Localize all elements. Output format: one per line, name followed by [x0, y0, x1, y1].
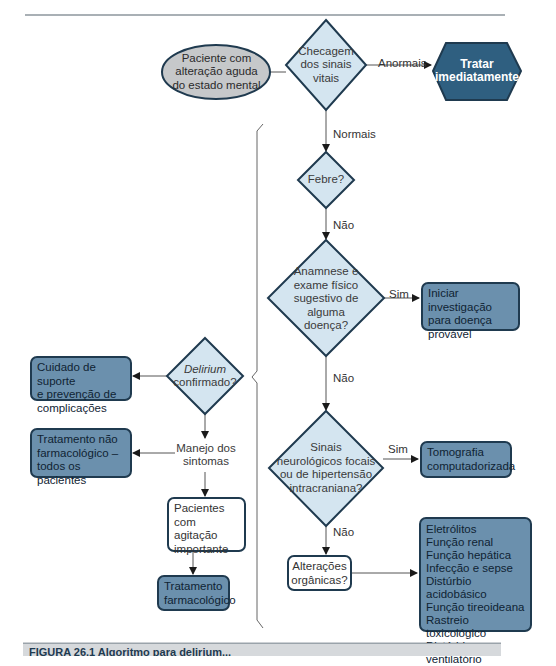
organic-item: Eletrólitos: [426, 523, 525, 536]
agitation-box: Pacientes com agitação importante: [167, 497, 246, 552]
treat-now-line-1: Tratar: [435, 58, 519, 72]
start-line-2: alteração aguda: [172, 65, 260, 79]
delirium-line-1: Delirium: [173, 363, 236, 377]
start-line-3: do estado mental: [172, 79, 260, 93]
investigate-box: Iniciar investigação para doença prováve…: [421, 282, 520, 331]
vitals-line-2: dos sinais: [298, 58, 354, 72]
start-node: Paciente com alteração aguda do estado m…: [163, 52, 270, 92]
treat-now-node: Tratar imediatamente: [438, 50, 516, 92]
organic-line-1: Alterações: [291, 560, 348, 574]
fever-no-label: Não: [333, 219, 354, 232]
support-line-3: complicações: [37, 402, 125, 416]
brace: [252, 124, 263, 628]
investigate-line-1: Iniciar investigação: [428, 287, 513, 314]
neuro-line-1: Sinais: [277, 441, 375, 455]
organic-item: Função tireoideana: [426, 601, 525, 614]
fever-node: Febre?: [298, 172, 354, 188]
ct-line-1: Tomografia: [427, 446, 505, 460]
organic-item: Infecção e sepse: [426, 562, 525, 575]
abnormal-label: Anormais: [378, 57, 427, 70]
symptoms-line-1: Manejo dos: [176, 442, 235, 456]
neuro-yes-label: Sim: [388, 443, 408, 456]
pharm-line-1: Tratamento: [164, 580, 223, 594]
ct-box: Tomografia computadorizada: [420, 441, 512, 478]
investigate-line-2: para doença: [428, 314, 513, 328]
support-line-2: e prevenção de: [37, 388, 125, 402]
agitation-line-3: importante: [174, 543, 239, 557]
history-line-4: alguma: [294, 306, 359, 320]
support-box: Cuidado de suporte e prevenção de compli…: [30, 356, 132, 401]
neuro-node: Sinais neurológicos focais ou de hiperte…: [276, 440, 376, 496]
investigate-line-3: provável: [428, 328, 513, 342]
treat-now-line-2: imediatamente: [435, 71, 519, 85]
neuro-line-2: neurológicos focais: [277, 455, 375, 469]
figure-caption: FIGURA 26.1 Algoritmo para delirium...: [23, 643, 501, 656]
nonpharm-line-3: todos os pacientes: [37, 460, 125, 487]
history-no-label: Não: [333, 372, 354, 385]
nonpharm-box: Tratamento não farmacológico – todos os …: [30, 428, 132, 478]
caption-text: FIGURA 26.1 Algoritmo para delirium...: [29, 646, 231, 656]
history-line-5: doença?: [294, 319, 359, 333]
support-line-1: Cuidado de suporte: [37, 361, 125, 388]
history-line-2: exame físico: [294, 279, 359, 293]
delirium-node: Delirium confirmado?: [170, 362, 240, 390]
start-line-1: Paciente com: [172, 52, 260, 66]
vitals-line-3: vitais: [298, 72, 354, 86]
pharm-box: Tratamento farmacológico: [157, 575, 230, 611]
agitation-line-2: agitação: [174, 529, 239, 543]
ct-line-2: computadorizada: [427, 460, 505, 474]
nonpharm-line-1: Tratamento não: [37, 433, 125, 447]
organic-item: Rastreio toxicológico: [426, 614, 525, 640]
symptoms-line-2: sintomas: [176, 455, 235, 469]
organic-line-2: orgânicas?: [291, 574, 348, 588]
organic-box: Alterações orgânicas?: [287, 555, 352, 591]
history-node: Anamnese e exame físico sugestivo de alg…: [280, 264, 372, 334]
vitals-node: Checagem dos sinais vitais: [290, 45, 362, 85]
history-line-3: sugestivo de: [294, 292, 359, 306]
symptoms-node: Manejo dos sintomas: [175, 440, 237, 470]
agitation-line-1: Pacientes com: [174, 502, 239, 529]
delirium-line-2: confirmado?: [173, 376, 236, 390]
organic-item: Distúrbio acidobásico: [426, 575, 525, 601]
normal-label: Normais: [333, 128, 376, 141]
neuro-line-3: ou de hipertensão: [277, 468, 375, 482]
nonpharm-line-2: farmacológico –: [37, 447, 125, 461]
vitals-line-1: Checagem: [298, 45, 354, 59]
organic-checks-box: Eletrólitos Função renal Função hepática…: [419, 517, 532, 632]
history-yes-label: Sim: [389, 288, 409, 301]
organic-item: Função hepática: [426, 549, 525, 562]
neuro-line-4: intracraniana?: [277, 482, 375, 496]
pharm-line-2: farmacológico: [164, 594, 223, 608]
neuro-no-label: Não: [333, 526, 354, 539]
organic-item: Função renal: [426, 536, 525, 549]
history-line-1: Anamnese e: [294, 265, 359, 279]
